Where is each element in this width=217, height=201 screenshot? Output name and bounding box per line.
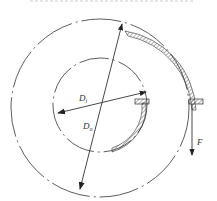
force-label: F [196,137,203,147]
inner-lining [112,103,146,152]
inner-diameter-label: Di [78,93,88,104]
inner-diameter-line [58,92,146,113]
outer-circle [11,19,189,197]
outer-diameter-label: Do [82,121,93,132]
outer-bracket [189,99,203,104]
inner-bracket [135,99,149,104]
brake-diagram: Di Do F [0,0,217,201]
